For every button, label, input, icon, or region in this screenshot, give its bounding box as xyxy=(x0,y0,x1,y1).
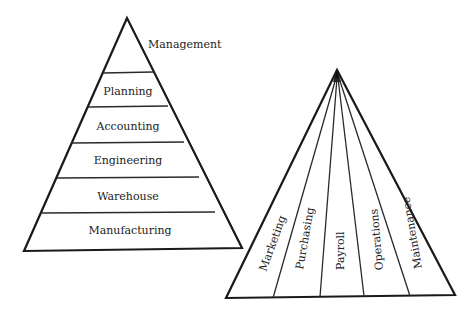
apex-label-management: Management xyxy=(148,38,222,51)
layer-label-engineering: Engineering xyxy=(94,154,163,167)
diagram-canvas: Management Planning Accounting Engineeri… xyxy=(0,0,475,315)
layer-label-manufacturing: Manufacturing xyxy=(88,224,171,237)
left-pyramid: Management Planning Accounting Engineeri… xyxy=(24,18,242,251)
layer-label-planning: Planning xyxy=(103,85,152,98)
segment-label-operations: Operations xyxy=(368,208,386,271)
layer-divider xyxy=(41,212,215,213)
layer-divider xyxy=(57,177,199,178)
segment-label-payroll: Payroll xyxy=(334,231,347,270)
left-pyramid-outline xyxy=(24,18,242,251)
layer-label-warehouse: Warehouse xyxy=(97,190,159,203)
layer-divider xyxy=(88,106,168,107)
segment-label-marketing: Marketing xyxy=(257,214,289,273)
layer-label-accounting: Accounting xyxy=(95,120,159,133)
layer-divider xyxy=(72,142,184,143)
layer-divider xyxy=(103,72,153,73)
right-pyramid: Marketing Purchasing Payroll Operations … xyxy=(226,70,455,298)
